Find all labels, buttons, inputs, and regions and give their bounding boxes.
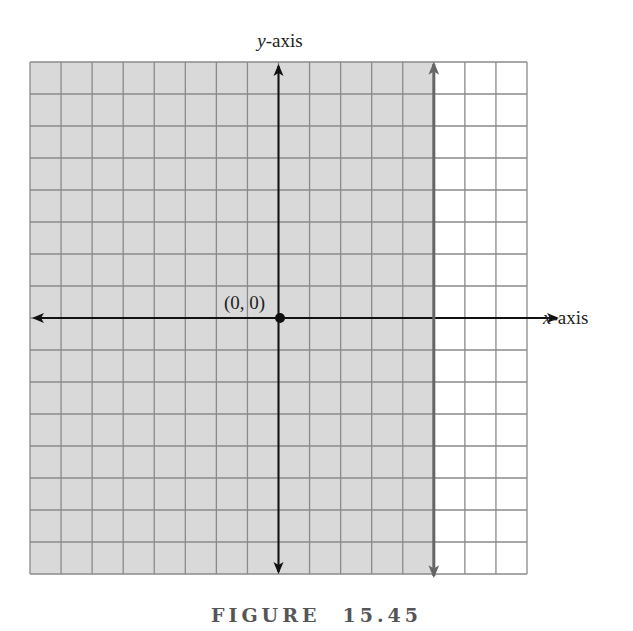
origin-label: (0, 0) [224, 292, 265, 314]
caption-word: FIGURE [211, 604, 320, 626]
origin-point [275, 313, 285, 323]
coordinate-grid-figure: y-axis x-axis (0, 0) [0, 0, 633, 631]
caption-number: 15.45 [342, 604, 422, 626]
figure-caption: FIGURE15.45 [0, 604, 633, 626]
x-axis-label: x-axis [542, 307, 588, 328]
y-axis-label: y-axis [255, 30, 302, 51]
